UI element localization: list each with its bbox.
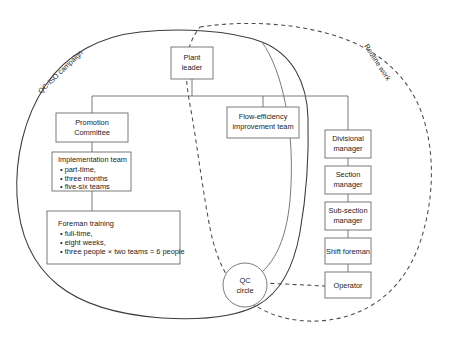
node-plant-leader-label-2: leader: [182, 63, 203, 72]
node-qc-circle-label-1: QC: [239, 276, 251, 285]
node-plant-leader-label-1: Plant: [184, 53, 201, 62]
node-implementation-team-title: Implementation team: [58, 155, 127, 164]
node-sub-section-manager[interactable]: Sub-section manager: [325, 202, 371, 230]
node-foreman-training-item-0: • full-time,: [60, 229, 93, 238]
diagram-canvas: QC-ISO campaign Routine work Plant l: [0, 0, 451, 345]
organisation-diagram: QC-ISO campaign Routine work Plant l: [0, 0, 451, 345]
node-flow-efficiency-team[interactable]: Flow-efficiency improvement team: [227, 107, 299, 138]
node-operator[interactable]: Operator: [325, 272, 371, 298]
node-plant-leader[interactable]: Plant leader: [171, 47, 213, 79]
envelope-routine-outline: [186, 23, 431, 321]
node-promotion-committee-label-1: Promotion: [75, 118, 109, 127]
node-section-manager[interactable]: Section manager: [325, 166, 371, 194]
node-promotion-committee-label-2: Committee: [74, 128, 110, 137]
connector-campaign-to-qc-circle: [251, 42, 291, 280]
node-divisional-manager-label-2: manager: [333, 144, 363, 153]
node-implementation-team[interactable]: Implementation team • part-time, • three…: [52, 152, 131, 191]
node-divisional-manager[interactable]: Divisional manager: [325, 130, 371, 158]
node-shift-foreman[interactable]: Shift foreman: [325, 238, 371, 264]
envelope-label-campaign: QC-ISO campaign: [36, 48, 84, 95]
node-qc-circle-label-2: circle: [236, 286, 253, 295]
node-flow-efficiency-team-label-2: improvement team: [232, 122, 293, 131]
link-qc-circle-to-operator: [263, 283, 325, 286]
node-qc-circle[interactable]: QC circle: [223, 263, 267, 307]
node-implementation-team-item-0: • part-time,: [60, 165, 96, 174]
node-divisional-manager-label-1: Divisional: [332, 134, 364, 143]
node-flow-efficiency-team-label-1: Flow-efficiency: [239, 112, 288, 121]
node-operator-label-1: Operator: [333, 281, 363, 290]
node-foreman-training-item-2: • three people × two teams = 6 people: [60, 247, 185, 256]
node-foreman-training-item-1: • eight weeks,: [60, 238, 106, 247]
node-sub-section-manager-label-2: manager: [333, 216, 363, 225]
node-section-manager-label-2: manager: [333, 180, 363, 189]
node-sub-section-manager-label-1: Sub-section: [328, 206, 367, 215]
node-foreman-training[interactable]: Foreman training • full-time, • eight we…: [47, 211, 185, 264]
node-shift-foreman-label-1: Shift foreman: [326, 247, 370, 256]
node-promotion-committee[interactable]: Promotion Committee: [56, 113, 128, 142]
node-section-manager-label-1: Section: [336, 170, 361, 179]
node-implementation-team-item-2: • five-six teams: [60, 182, 110, 191]
envelope-label-routine: Routine work: [362, 42, 393, 82]
node-foreman-training-title: Foreman training: [58, 219, 114, 228]
